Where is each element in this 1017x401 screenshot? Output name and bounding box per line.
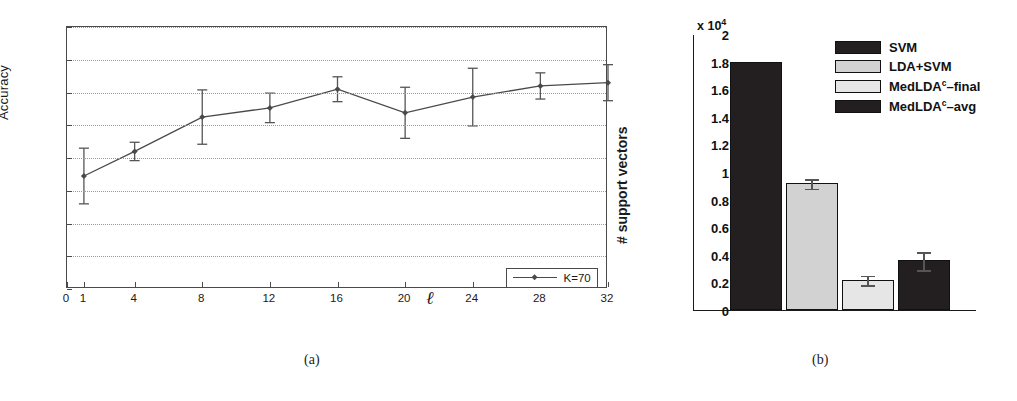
legend-color-swatch: [835, 41, 881, 54]
error-bar-cap: [805, 179, 819, 181]
x-tick-mark: [270, 282, 271, 287]
gridline: [67, 158, 606, 159]
caption-b: (b): [812, 352, 828, 368]
y-tick-label: 1.4: [685, 110, 729, 125]
data-point: [79, 148, 89, 204]
data-point: [400, 87, 410, 138]
data-point: [333, 77, 343, 102]
x-tick-label: 0: [63, 292, 69, 304]
legend-label: SVM: [889, 40, 917, 55]
y-tick-label: 0.4: [685, 248, 729, 263]
gridline: [67, 256, 606, 257]
y-tick-label: 0: [685, 304, 729, 319]
gridline: [67, 60, 606, 61]
y-tick-label: 1: [685, 166, 729, 181]
bar: [730, 62, 782, 310]
x-tick-mark: [202, 282, 203, 287]
y-tick-label: 0.2: [685, 276, 729, 291]
legend-label: MedLDAc–avg: [889, 98, 976, 114]
y-tick-label: 0.8: [685, 193, 729, 208]
y-tick-mark: [67, 125, 72, 126]
x-tick-label: 28: [533, 292, 546, 304]
legend-label: MedLDAc–final: [889, 78, 980, 94]
legend-color-swatch: [835, 80, 881, 93]
x-tick-label: 1: [80, 292, 86, 304]
x-tick-label: 4: [130, 292, 136, 304]
panel-a-legend-label: K=70: [564, 272, 591, 284]
gridline: [67, 93, 606, 94]
y-tick-label: 1.6: [685, 83, 729, 98]
y-tick-label: 1.8: [685, 55, 729, 70]
x-tick-mark: [473, 282, 474, 287]
y-tick-mark: [67, 158, 72, 159]
x-tick-mark: [405, 282, 406, 287]
y-tick-label: 2: [685, 28, 729, 43]
gridline: [67, 191, 606, 192]
y-tick-mark: [67, 256, 72, 257]
panel-a-plot-area: [66, 26, 607, 288]
x-tick-mark: [67, 282, 68, 287]
error-bar: [923, 252, 925, 270]
x-tick-label: 16: [330, 292, 343, 304]
legend-item[interactable]: MedLDAc–final: [835, 78, 980, 94]
gridline: [67, 224, 606, 225]
gridline: [67, 27, 606, 28]
legend-label: LDA+SVM: [889, 59, 951, 74]
error-bar-cap: [861, 276, 875, 278]
gridline: [67, 125, 606, 126]
x-tick-mark: [135, 282, 136, 287]
x-tick-mark: [338, 282, 339, 287]
x-tick-label: 20: [398, 292, 411, 304]
panel-a-legend[interactable]: K=70: [506, 268, 598, 288]
y-tick-label: 0.6: [685, 221, 729, 236]
legend-item[interactable]: LDA+SVM: [835, 59, 980, 74]
error-bar-cap: [805, 189, 819, 191]
panel-a-y-axis-label: Accuracy: [0, 65, 11, 120]
y-tick-mark: [67, 60, 72, 61]
legend-line-marker-icon: [513, 273, 557, 283]
panel-b-legend[interactable]: SVMLDA+SVMMedLDAc–finalMedLDAc–avg: [835, 40, 980, 115]
error-bar-cap: [917, 252, 931, 254]
legend-color-swatch: [835, 60, 881, 73]
x-tick-label: 8: [198, 292, 204, 304]
y-tick-mark: [67, 27, 72, 28]
y-tick-label: 1.2: [685, 138, 729, 153]
legend-item[interactable]: SVM: [835, 40, 980, 55]
y-tick-mark: [67, 224, 72, 225]
bar: [786, 183, 838, 310]
panel-b-support-vectors: # support vectors x 104 00.20.40.60.811.…: [610, 0, 1017, 401]
panel-a-accuracy-vs-l: Accuracy ℓ 0.720.730.740.750.760.770.780…: [0, 0, 610, 401]
panel-b-y-axis-label: # support vectors: [614, 127, 630, 244]
error-bar-cap: [917, 270, 931, 272]
x-tick-label: 12: [262, 292, 275, 304]
figure-root: Accuracy ℓ 0.720.730.740.750.760.770.780…: [0, 0, 1017, 401]
caption-a: (a): [304, 352, 320, 368]
y-tick-mark: [67, 93, 72, 94]
y-tick-mark: [67, 289, 72, 290]
x-tick-mark: [608, 282, 609, 287]
x-tick-label: 24: [465, 292, 478, 304]
y-tick-mark: [67, 191, 72, 192]
x-tick-mark: [84, 282, 85, 287]
error-bar-cap: [861, 285, 875, 287]
legend-item[interactable]: MedLDAc–avg: [835, 98, 980, 114]
legend-color-swatch: [835, 100, 881, 113]
panel-a-x-axis-label: ℓ: [426, 288, 434, 309]
